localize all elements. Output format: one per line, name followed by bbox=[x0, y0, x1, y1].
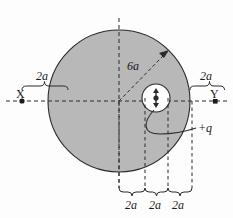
left-gap-label: 2a bbox=[36, 69, 48, 83]
physics-diagram-figure: 6a +q X Y 2a 2a 2a 2a 2a bbox=[0, 0, 233, 218]
bottom-label-2: 2a bbox=[149, 198, 161, 212]
bottom-label-1: 2a bbox=[125, 198, 137, 212]
bottom-brace-3 bbox=[168, 188, 192, 196]
bottom-label-3: 2a bbox=[172, 198, 184, 212]
diagram-canvas: 6a +q X Y 2a 2a 2a 2a 2a bbox=[0, 0, 233, 218]
radius-label: 6a bbox=[127, 59, 139, 73]
point-x-label: X bbox=[16, 87, 25, 101]
bottom-brace-2 bbox=[145, 188, 168, 196]
right-gap-label: 2a bbox=[200, 69, 212, 83]
bottom-brace-1 bbox=[119, 188, 145, 196]
charge-label: +q bbox=[198, 121, 212, 135]
point-charge-dot bbox=[153, 95, 158, 100]
point-y-label: Y bbox=[210, 87, 219, 101]
